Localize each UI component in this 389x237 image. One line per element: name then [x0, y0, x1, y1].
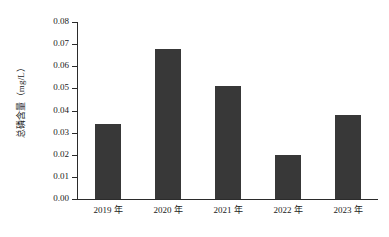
y-axis-tick-label: 0.07 [53, 37, 69, 50]
y-axis-tick-mark [72, 177, 77, 178]
y-axis-tick-mark [72, 88, 77, 89]
bar [95, 124, 121, 199]
bars-layer [78, 22, 378, 199]
x-axis-tick-label: 2023 年 [318, 203, 378, 217]
y-axis-tick-label: 0.05 [53, 81, 69, 94]
y-axis-tick-label: 0.04 [53, 104, 69, 117]
x-axis-line [77, 199, 378, 200]
y-axis-title: 总磷含量（mg/L） [0, 0, 42, 200]
bar [335, 115, 361, 199]
y-axis-tick-label: 0.01 [53, 170, 69, 183]
x-axis-tick-label: 2022 年 [258, 203, 318, 217]
y-axis-tick-mark [72, 22, 77, 23]
bar [155, 49, 181, 199]
x-axis-tick-label: 2019 年 [78, 203, 138, 217]
y-axis-tick-label: 0.06 [53, 59, 69, 72]
x-axis-tick-label: 2021 年 [198, 203, 258, 217]
x-axis-tick-label: 2020 年 [138, 203, 198, 217]
y-axis-tick-mark [72, 111, 77, 112]
y-axis-tick-mark [72, 199, 77, 200]
y-axis-tick-label: 0.08 [53, 15, 69, 28]
x-axis-labels: 2019 年2020 年2021 年2022 年2023 年 [78, 203, 378, 223]
y-axis-tick-mark [72, 133, 77, 134]
y-axis-tick-label: 0.03 [53, 126, 69, 139]
y-axis-tick-mark [72, 155, 77, 156]
bar-chart-figure: 总磷含量（mg/L） 0.080.070.060.050.040.030.020… [0, 0, 389, 237]
y-axis-tick-mark [72, 44, 77, 45]
plot-area: 0.080.070.060.050.040.030.020.010.00 [78, 22, 378, 199]
y-axis-title-label: 总磷含量（mg/L） [15, 62, 28, 138]
y-axis-tick-label: 0.00 [53, 192, 69, 205]
y-axis-tick-mark [72, 66, 77, 67]
bar [275, 155, 301, 199]
bar [215, 86, 241, 199]
y-axis-tick-label: 0.02 [53, 148, 69, 161]
